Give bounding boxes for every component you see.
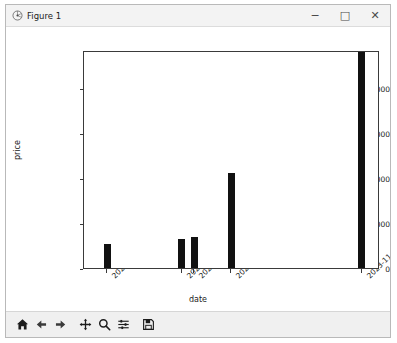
figure-window: Figure 1 − □ ✕ price 05,000,00010,000,00… (5, 4, 391, 338)
x-tick-mark (230, 269, 231, 273)
x-tick-mark (361, 269, 362, 273)
forward-arrow-icon[interactable] (51, 316, 69, 334)
x-tick-label: 2023-11-09 (185, 274, 191, 280)
zoom-magnifier-icon[interactable] (95, 316, 113, 334)
save-floppy-icon[interactable] (139, 316, 157, 334)
matplotlib-figure: price 05,000,00010,000,00015,000,00020,0… (6, 27, 390, 311)
bar (228, 173, 235, 268)
bar (358, 52, 365, 268)
matplotlib-toolbar (6, 311, 390, 337)
x-tick-label: 2023-11-10 (197, 274, 203, 280)
figure-canvas[interactable]: price 05,000,00010,000,00015,000,00020,0… (6, 27, 390, 311)
window-controls: − □ ✕ (300, 5, 390, 26)
bar (178, 239, 185, 268)
home-icon[interactable] (13, 316, 31, 334)
x-tick-label: 2023-11-29 (365, 274, 371, 280)
close-button[interactable]: ✕ (360, 5, 390, 26)
x-tick-mark (181, 269, 182, 273)
back-arrow-icon[interactable] (32, 316, 50, 334)
screenshot-root: Figure 1 − □ ✕ price 05,000,00010,000,00… (0, 0, 397, 343)
x-tick-label: 2023-10-31 (110, 274, 116, 280)
titlebar-left: Figure 1 (6, 10, 300, 21)
x-axis-label: date (6, 295, 390, 304)
pan-move-icon[interactable] (76, 316, 94, 334)
bars-container (84, 52, 378, 268)
matplotlib-icon (12, 10, 23, 21)
x-tick-mark (193, 269, 194, 273)
x-tick-mark (106, 269, 107, 273)
axes-frame (83, 51, 379, 269)
window-title: Figure 1 (27, 11, 61, 21)
x-tick-label: 2023-11-14 (234, 274, 240, 280)
maximize-button[interactable]: □ (330, 5, 360, 26)
configure-subplots-icon[interactable] (114, 316, 132, 334)
y-tick-mark (80, 269, 84, 270)
window-titlebar[interactable]: Figure 1 − □ ✕ (6, 5, 390, 27)
bar (104, 244, 111, 268)
bar (191, 237, 198, 268)
y-axis-label: price (13, 140, 22, 160)
minimize-button[interactable]: − (300, 5, 330, 26)
